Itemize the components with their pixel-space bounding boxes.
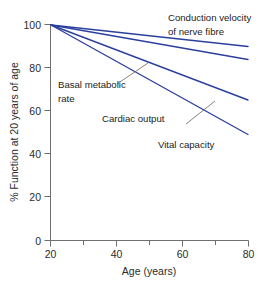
y-tick-label-20: 20 (29, 191, 41, 203)
annotation-basal-metabolic-rate-line1: Basal metabolic (58, 79, 126, 90)
y-tick-label-80: 80 (29, 62, 41, 74)
y-tick-label-40: 40 (29, 148, 41, 160)
y-tick-label-60: 60 (29, 105, 41, 117)
chart-figure: 100 80 60 40 20 0 20 40 60 80 Age (years… (0, 0, 267, 288)
line-chart-canvas: 100 80 60 40 20 0 20 40 60 80 Age (years… (0, 0, 267, 288)
annotation-vital-capacity: Vital capacity (158, 139, 215, 150)
annotation-conduction-velocity-line2: of nerve fibre (168, 26, 224, 37)
annotation-cardiac-output: Cardiac output (102, 113, 165, 124)
y-tick-label-0: 0 (35, 235, 41, 247)
y-axis-title: % Function at 20 years of age (8, 62, 20, 202)
x-tick-label-60: 60 (177, 248, 189, 260)
annotation-conduction-velocity-line1: Conduction velocity (168, 12, 251, 23)
y-tick-label-100: 100 (23, 19, 41, 31)
x-axis-title: Age (years) (122, 265, 176, 277)
x-tick-label-20: 20 (45, 248, 57, 260)
annotation-basal-metabolic-rate-line2: rate (58, 93, 75, 104)
x-tick-label-80: 80 (243, 248, 255, 260)
x-tick-label-40: 40 (111, 248, 123, 260)
